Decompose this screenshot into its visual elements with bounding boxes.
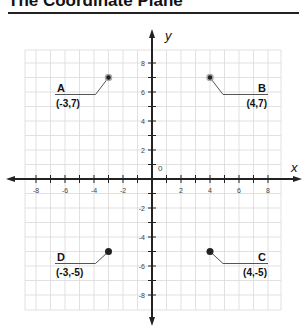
point-name-b: B: [258, 82, 266, 94]
x-tick-label: -2: [120, 187, 126, 194]
point-marker-d: [105, 248, 112, 255]
y-tick-label: -8: [139, 292, 145, 299]
y-axis-bottom-arrow-icon: [149, 317, 155, 326]
point-marker-a: [106, 75, 112, 81]
x-tick-label: 4: [208, 187, 212, 194]
point-coord-b: (4,7): [246, 98, 267, 109]
x-axis-left-arrow-icon: [6, 176, 15, 182]
x-tick-label: -6: [62, 187, 68, 194]
y-tick-label: -4: [139, 234, 145, 241]
y-tick-label: 2: [141, 147, 145, 154]
x-axis-label: x: [290, 160, 298, 175]
point-coord-a: (-3,7): [56, 98, 80, 109]
x-tick-label: 2: [179, 187, 183, 194]
point-marker-c: [207, 248, 214, 255]
y-tick-label: 8: [141, 60, 145, 67]
point-coord-c: (4,-5): [243, 267, 267, 278]
point-name-d: D: [57, 251, 65, 263]
x-axis-right-arrow-icon: [293, 176, 302, 182]
x-tick-label: -8: [33, 187, 39, 194]
point-marker-b: [207, 75, 213, 81]
point-coord-d: (-3,-5): [56, 267, 83, 278]
x-tick-label: 8: [266, 187, 270, 194]
y-tick-label: -6: [139, 263, 145, 270]
x-tick-label: 6: [237, 187, 241, 194]
y-tick-label: 6: [141, 89, 145, 96]
y-tick-label: -2: [139, 205, 145, 212]
coordinate-plane: -8-6-4-22468-8-6-4-224680yxA(-3,7)B(4,7)…: [0, 0, 307, 328]
origin-label: 0: [158, 164, 163, 173]
y-axis-top-arrow-icon: [149, 29, 155, 38]
y-axis-label: y: [164, 28, 173, 43]
y-tick-label: 4: [141, 118, 145, 125]
x-tick-label: -4: [91, 187, 97, 194]
point-name-c: C: [258, 251, 266, 263]
point-name-a: A: [57, 82, 65, 94]
